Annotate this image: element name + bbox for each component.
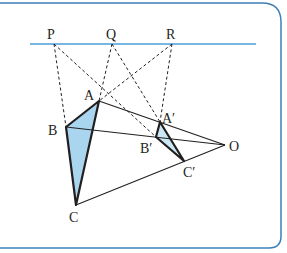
label-a-prime: A′ xyxy=(162,111,175,126)
label-o: O xyxy=(229,139,239,154)
label-a: A xyxy=(84,88,95,103)
label-c: C xyxy=(69,210,78,225)
label-b: B xyxy=(48,123,57,138)
label-q: Q xyxy=(106,27,116,42)
label-r: R xyxy=(166,27,176,42)
label-b-prime: B′ xyxy=(140,141,152,156)
frame-border xyxy=(0,3,281,248)
label-p: P xyxy=(47,27,55,42)
label-c-prime: C′ xyxy=(183,165,195,180)
perspective-diagram: P Q R A B C A′ B′ C′ O xyxy=(0,0,287,253)
triangle-abc-fill xyxy=(66,101,99,205)
